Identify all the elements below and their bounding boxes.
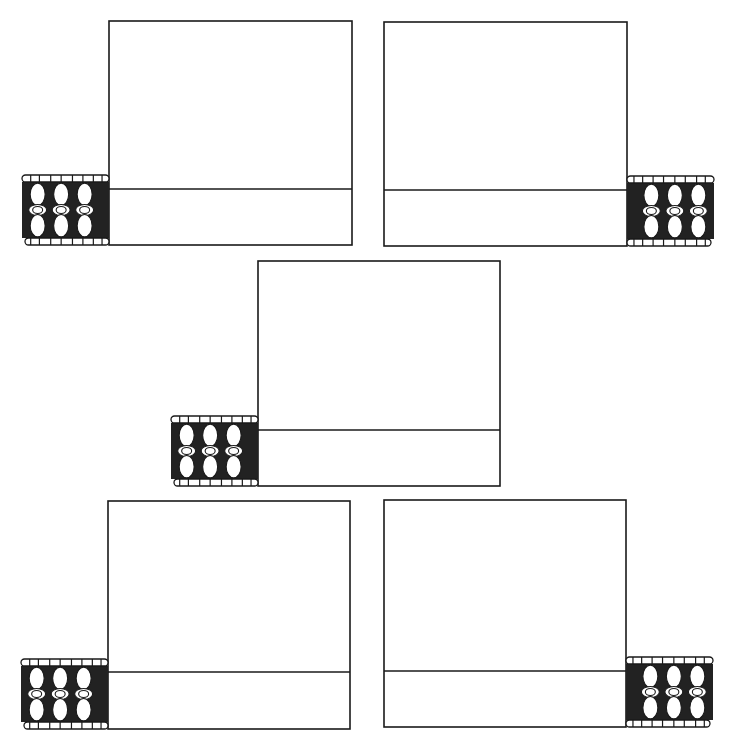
bead-top bbox=[54, 183, 69, 205]
panel-bottom-left bbox=[21, 501, 350, 729]
bead-top bbox=[203, 424, 218, 446]
bead-bottom bbox=[30, 214, 45, 236]
bead-top bbox=[30, 183, 45, 205]
panel-frame bbox=[258, 261, 500, 486]
bead-bottom bbox=[226, 455, 241, 477]
panel-frame bbox=[108, 501, 350, 729]
bead-center bbox=[32, 691, 42, 698]
bead-bottom bbox=[76, 698, 91, 720]
bead-center bbox=[229, 448, 239, 455]
band-rail-bottom bbox=[626, 720, 710, 727]
bead-bottom bbox=[179, 455, 194, 477]
band-rail-bottom bbox=[627, 239, 711, 246]
panel-frame bbox=[384, 22, 627, 246]
bead-center bbox=[182, 448, 192, 455]
bead-center bbox=[56, 207, 66, 214]
panel-bottom-right bbox=[384, 500, 713, 727]
band-rail-top bbox=[21, 659, 108, 666]
bead-bottom bbox=[53, 698, 68, 720]
bead-center bbox=[79, 691, 89, 698]
band-rail-bottom bbox=[25, 238, 109, 245]
diagram-svg bbox=[0, 0, 735, 741]
band-rail-top bbox=[626, 657, 713, 664]
bead-top bbox=[77, 183, 92, 205]
bead-top bbox=[53, 667, 68, 689]
beaded-band bbox=[171, 416, 258, 486]
bead-bottom bbox=[29, 698, 44, 720]
bead-top bbox=[690, 665, 705, 687]
panel-frame bbox=[109, 21, 352, 245]
beaded-band bbox=[21, 659, 108, 729]
bead-center bbox=[205, 448, 215, 455]
bead-top bbox=[179, 424, 194, 446]
panel-frame bbox=[384, 500, 626, 727]
bead-top bbox=[666, 665, 681, 687]
bead-bottom bbox=[644, 215, 659, 237]
bead-center bbox=[33, 207, 43, 214]
bead-bottom bbox=[77, 214, 92, 236]
band-rail-top bbox=[22, 175, 109, 182]
bead-top bbox=[76, 667, 91, 689]
panel-top-right bbox=[384, 22, 714, 246]
beaded-band bbox=[22, 175, 109, 245]
band-rail-top bbox=[171, 416, 258, 423]
bead-top bbox=[643, 665, 658, 687]
band-rail-bottom bbox=[174, 479, 258, 486]
bead-bottom bbox=[203, 455, 218, 477]
bead-center bbox=[55, 691, 65, 698]
panel-middle bbox=[171, 261, 500, 486]
band-rail-top bbox=[627, 176, 714, 183]
bead-center bbox=[645, 689, 655, 696]
bead-bottom bbox=[666, 696, 681, 718]
bead-center bbox=[646, 208, 656, 215]
bead-center bbox=[692, 689, 702, 696]
bead-bottom bbox=[690, 696, 705, 718]
bead-bottom bbox=[667, 215, 682, 237]
bead-center bbox=[80, 207, 90, 214]
band-rail-bottom bbox=[24, 722, 108, 729]
bead-center bbox=[669, 689, 679, 696]
beaded-band bbox=[627, 176, 714, 246]
bead-bottom bbox=[691, 215, 706, 237]
bead-bottom bbox=[643, 696, 658, 718]
bead-top bbox=[29, 667, 44, 689]
bead-center bbox=[693, 208, 703, 215]
bead-bottom bbox=[54, 214, 69, 236]
panel-top-left bbox=[22, 21, 352, 245]
bead-top bbox=[644, 184, 659, 206]
bead-center bbox=[670, 208, 680, 215]
bead-top bbox=[226, 424, 241, 446]
bead-top bbox=[691, 184, 706, 206]
bead-top bbox=[667, 184, 682, 206]
beaded-band bbox=[626, 657, 713, 727]
